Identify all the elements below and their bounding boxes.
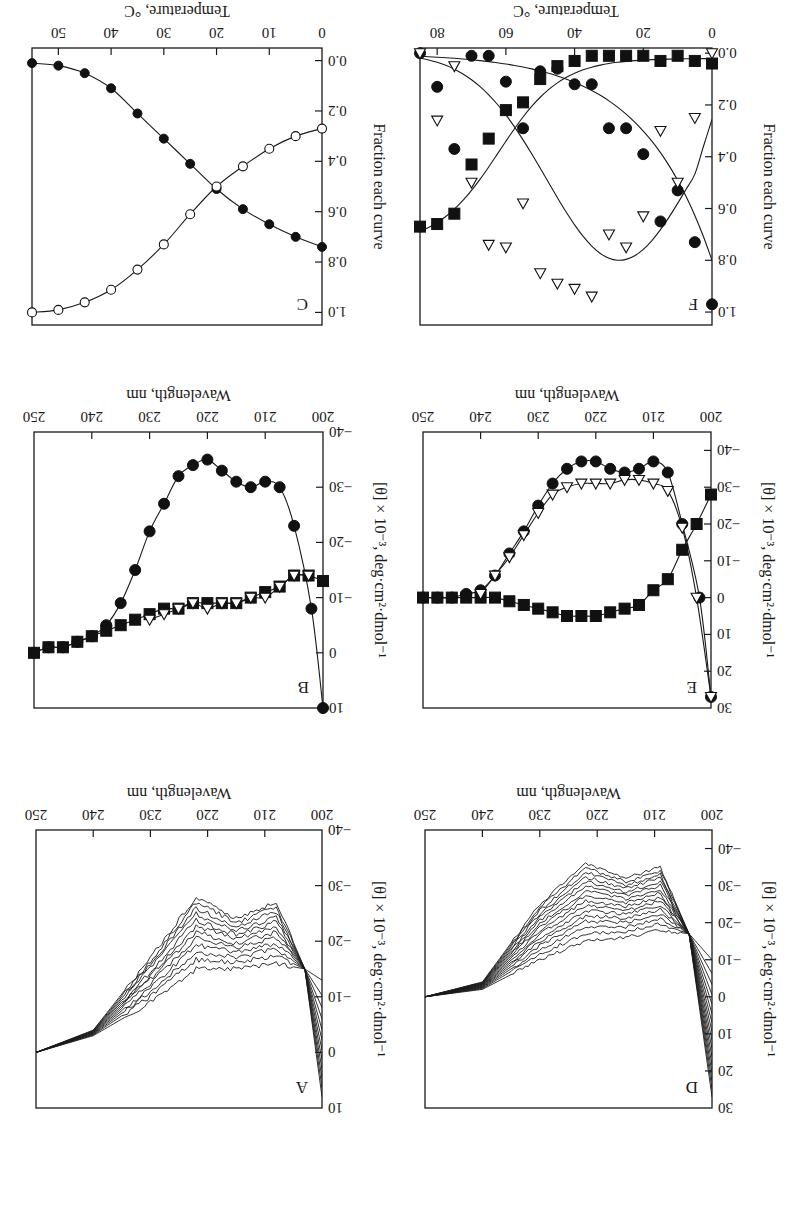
y-tick-label: 0.4 <box>718 149 737 165</box>
x-tick-label: 220 <box>585 409 608 425</box>
y-tick-label: −20 <box>329 534 352 550</box>
y-tick-label: 30 <box>717 700 732 716</box>
marker-filled-square <box>662 574 673 585</box>
marker-filled-circle <box>648 456 659 467</box>
y-axis-title: [θ] × 10⁻³, deg·cm²·dmol⁻¹ <box>370 881 388 1057</box>
y-tick-label: 0.0 <box>328 53 347 69</box>
marker-filled-circle <box>202 454 213 465</box>
marker-open-circle <box>238 162 247 171</box>
x-tick-label: 250 <box>414 807 437 823</box>
y-tick-label: 10 <box>328 1100 343 1116</box>
marker-open-circle <box>80 298 89 307</box>
series-line <box>420 56 712 260</box>
marker-filled-circle <box>187 460 198 471</box>
marker-filled-square <box>57 642 68 653</box>
x-axis-title: Wavelength, nm <box>516 784 621 802</box>
x-tick-label: 210 <box>254 807 277 823</box>
marker-open-circle <box>133 265 142 274</box>
panel-f: 0204060801.00.80.60.40.20.0Temperature, … <box>415 2 779 325</box>
series-line <box>32 129 322 313</box>
marker-filled-circle <box>655 216 666 227</box>
plot-frame <box>36 830 322 1108</box>
marker-filled-circle <box>306 603 317 614</box>
marker-open-triangle <box>500 243 511 253</box>
y-tick-label: −10 <box>328 989 351 1005</box>
y-tick-label: −30 <box>717 479 740 495</box>
y-tick-label: 0 <box>717 590 725 606</box>
y-tick-label: 10 <box>717 626 732 642</box>
spectra-family <box>36 898 322 1097</box>
y-tick-label: −30 <box>328 878 351 894</box>
marker-filled-square <box>552 61 563 72</box>
marker-filled-circle <box>605 463 616 474</box>
y-tick-label: 10 <box>718 1026 733 1042</box>
marker-filled-square <box>638 50 649 61</box>
x-tick-label: 200 <box>311 807 334 823</box>
x-tick-label: 80 <box>430 25 445 41</box>
marker-filled-circle <box>634 463 645 474</box>
y-tick-label: −40 <box>718 841 741 857</box>
plot-frame <box>420 48 712 325</box>
marker-filled-circle <box>318 703 329 714</box>
marker-filled-square <box>29 647 40 658</box>
cd-spectrum-line <box>425 915 712 997</box>
x-tick-label: 40 <box>104 25 119 41</box>
y-tick-label: 0.6 <box>328 204 347 220</box>
marker-open-triangle <box>159 610 170 620</box>
y-tick-label: 0.2 <box>718 97 737 113</box>
figure-root: 200210220230240250100−10−20−30−40Wavelen… <box>0 0 803 1213</box>
x-tick-label: 210 <box>642 409 665 425</box>
marker-filled-square <box>415 221 426 232</box>
marker-filled-square <box>562 611 573 622</box>
marker-filled-circle <box>449 143 460 154</box>
marker-open-triangle <box>144 615 155 625</box>
marker-filled-circle <box>115 598 126 609</box>
x-tick-label: 30 <box>156 25 171 41</box>
marker-open-triangle <box>621 243 632 253</box>
spectra-family <box>425 863 712 1097</box>
marker-open-triangle <box>586 292 597 302</box>
x-tick-label: 250 <box>25 807 48 823</box>
x-tick-label: 250 <box>412 409 435 425</box>
marker-filled-square <box>707 58 718 69</box>
y-tick-label: 0 <box>718 989 726 1005</box>
marker-filled-square <box>72 636 83 647</box>
cd-spectrum-line <box>36 903 322 1088</box>
marker-filled-circle <box>576 456 587 467</box>
x-tick-label: 20 <box>209 25 224 41</box>
marker-open-triangle <box>466 178 477 188</box>
marker-filled-circle <box>289 520 300 531</box>
marker-filled-circle <box>260 476 271 487</box>
marker-open-triangle <box>662 486 673 496</box>
y-axis-title: [θ] × 10⁻³, deg·cm²·dmol⁻¹ <box>371 482 389 658</box>
y-tick-label: −10 <box>329 590 352 606</box>
x-axis-title: Wavelength, nm <box>126 386 231 404</box>
marker-open-triangle <box>569 284 580 294</box>
series-markers <box>415 48 718 310</box>
y-tick-label: −30 <box>329 479 352 495</box>
y-tick-label: 1.0 <box>328 304 347 320</box>
y-axis-title: [θ] × 10⁻³, deg·cm²·dmol⁻¹ <box>760 881 778 1057</box>
marker-open-circle <box>186 210 195 219</box>
y-tick-label: 10 <box>329 700 344 716</box>
series-markers <box>418 456 717 703</box>
cd-figure-canvas: 200210220230240250100−10−20−30−40Wavelen… <box>0 0 803 1213</box>
marker-filled-square <box>586 50 597 61</box>
marker-filled-circle <box>216 465 227 476</box>
y-tick-label: 0.8 <box>328 254 347 270</box>
x-tick-label: 230 <box>138 409 161 425</box>
plot-frame <box>425 830 712 1108</box>
y-tick-label: −30 <box>718 878 741 894</box>
marker-open-circle <box>291 132 300 141</box>
marker-filled-circle <box>144 526 155 537</box>
marker-filled-circle <box>707 299 718 310</box>
x-tick-label: 240 <box>81 409 104 425</box>
marker-filled-circle <box>638 149 649 160</box>
marker-open-circle <box>212 182 221 191</box>
panel-letter: E <box>687 678 697 697</box>
marker-filled-square <box>569 55 580 66</box>
x-axis-title: Wavelength, nm <box>126 784 231 802</box>
y-tick-label: −20 <box>328 933 351 949</box>
marker-filled-square <box>115 620 126 631</box>
x-tick-label: 200 <box>701 807 724 823</box>
